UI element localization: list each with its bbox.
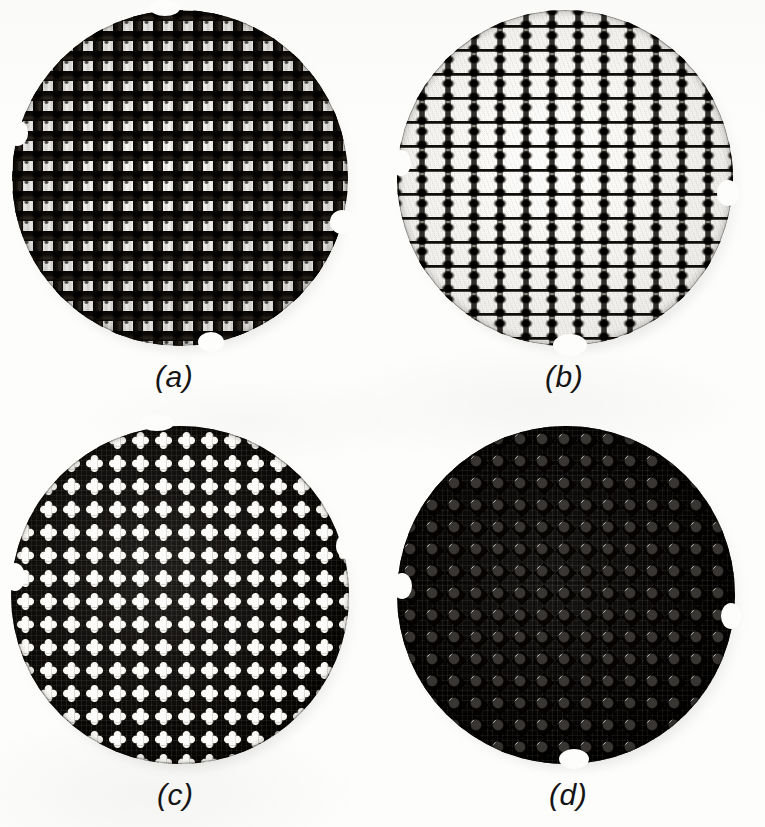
weave-pattern-c	[11, 426, 349, 764]
figure-panel-b: (b)	[383, 0, 765, 413]
figure-plate: (a) (b) (c)	[0, 0, 765, 827]
weave-pattern-a	[12, 10, 348, 346]
panel-label-c: (c)	[157, 778, 193, 812]
specimen-disc-c	[11, 426, 349, 764]
panel-label-d: (d)	[549, 778, 587, 812]
specimen-disc-b	[397, 10, 733, 346]
figure-panel-d: (d)	[383, 413, 765, 827]
specimen-disc-d	[397, 426, 735, 764]
weave-pattern-d	[397, 426, 735, 764]
weave-pattern-b	[397, 10, 733, 346]
weave-texture-b	[397, 10, 733, 346]
figure-panel-a: (a)	[0, 0, 383, 413]
figure-panel-c: (c)	[0, 413, 383, 827]
panel-label-b: (b)	[545, 360, 583, 394]
weave-notch-a	[12, 10, 348, 346]
panel-label-a: (a)	[155, 360, 193, 394]
weave-texture-c	[11, 426, 349, 764]
specimen-disc-a	[12, 10, 348, 346]
weave-texture-d	[397, 426, 735, 764]
